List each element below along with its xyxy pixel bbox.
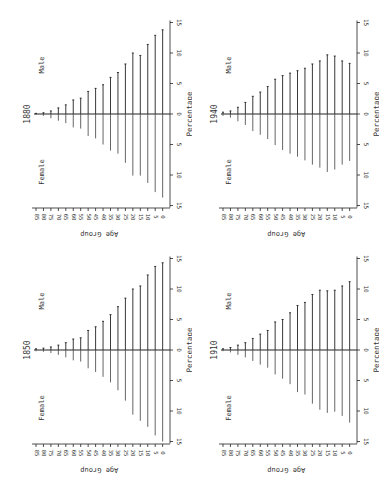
age-tick-label: 60 bbox=[258, 450, 264, 457]
percentage-tick-label: 15 bbox=[363, 19, 370, 27]
age-tick-label: 50 bbox=[273, 214, 279, 221]
percentage-tick-label: 0 bbox=[176, 348, 183, 352]
age-tick-label: 70 bbox=[56, 450, 62, 457]
age-tick-label: 30 bbox=[115, 214, 121, 221]
male-label: Male bbox=[38, 293, 46, 310]
pyramid-panel-1880: 15105051015Percentage8580757065605550454… bbox=[0, 0, 192, 248]
percentage-tick-label: 15 bbox=[363, 255, 370, 263]
panel-year-title: 1940 bbox=[210, 104, 219, 123]
age-tick-label: 10 bbox=[145, 214, 151, 221]
age-tick-label: 60 bbox=[71, 450, 77, 457]
age-axis-title: Age Group bbox=[80, 466, 118, 474]
age-tick-label: 80 bbox=[41, 214, 47, 221]
age-tick-label: 0 bbox=[347, 215, 353, 218]
age-tick-label: 15 bbox=[325, 214, 331, 221]
percentage-tick-label: 5 bbox=[363, 143, 370, 147]
age-tick-label: 25 bbox=[123, 214, 129, 221]
percentage-tick-label: 0 bbox=[363, 348, 370, 352]
panel-year-title: 1910 bbox=[210, 340, 219, 359]
female-label: Female bbox=[38, 395, 46, 420]
age-tick-label: 30 bbox=[115, 450, 121, 457]
age-tick-label: 0 bbox=[160, 451, 166, 454]
percentage-tick-label: 15 bbox=[176, 255, 183, 263]
age-tick-label: 65 bbox=[250, 450, 256, 457]
pyramid-panel-1850: 15105051015Percentage8580757065605550454… bbox=[0, 236, 192, 484]
age-tick-label: 75 bbox=[235, 214, 241, 221]
age-tick-label: 85 bbox=[220, 450, 226, 457]
age-tick-label: 70 bbox=[243, 450, 249, 457]
female-label: Female bbox=[38, 159, 46, 184]
age-tick-label: 55 bbox=[78, 450, 84, 457]
male-label: Male bbox=[225, 57, 233, 74]
age-tick-label: 0 bbox=[160, 215, 166, 218]
male-label: Male bbox=[38, 57, 46, 74]
age-tick-label: 5 bbox=[153, 215, 159, 218]
age-tick-label: 15 bbox=[325, 450, 331, 457]
age-tick-label: 70 bbox=[243, 214, 249, 221]
percentage-tick-label: 15 bbox=[176, 19, 183, 27]
percentage-tick-label: 15 bbox=[363, 438, 370, 446]
age-tick-label: 60 bbox=[258, 214, 264, 221]
percentage-tick-label: 5 bbox=[176, 379, 183, 383]
age-tick-label: 35 bbox=[295, 214, 301, 221]
percentage-axis-title: Percentage bbox=[372, 91, 379, 137]
percentage-tick-label: 15 bbox=[176, 202, 183, 210]
percentage-tick-label: 5 bbox=[176, 318, 183, 322]
percentage-tick-label: 15 bbox=[176, 438, 183, 446]
pyramid-chart-1940: 15105051015Percentage8580757065605550454… bbox=[187, 0, 379, 248]
percentage-tick-label: 10 bbox=[363, 285, 370, 293]
percentage-tick-label: 10 bbox=[176, 171, 183, 179]
pyramid-chart-1880: 15105051015Percentage8580757065605550454… bbox=[0, 0, 192, 248]
percentage-tick-label: 15 bbox=[363, 202, 370, 210]
age-tick-label: 75 bbox=[48, 450, 54, 457]
age-tick-label: 10 bbox=[145, 450, 151, 457]
age-tick-label: 85 bbox=[220, 214, 226, 221]
age-tick-label: 20 bbox=[317, 450, 323, 457]
age-tick-label: 5 bbox=[153, 451, 159, 454]
age-tick-label: 15 bbox=[138, 450, 144, 457]
age-tick-label: 85 bbox=[33, 214, 39, 221]
age-tick-label: 45 bbox=[280, 214, 286, 221]
age-axis-title: Age Group bbox=[267, 466, 305, 474]
age-tick-label: 40 bbox=[288, 450, 294, 457]
age-tick-label: 25 bbox=[123, 450, 129, 457]
age-tick-label: 10 bbox=[332, 450, 338, 457]
percentage-tick-label: 5 bbox=[176, 82, 183, 86]
percentage-tick-label: 5 bbox=[363, 318, 370, 322]
age-tick-label: 75 bbox=[48, 214, 54, 221]
age-tick-label: 55 bbox=[78, 214, 84, 221]
percentage-tick-label: 0 bbox=[363, 112, 370, 116]
pyramid-chart-1850: 15105051015Percentage8580757065605550454… bbox=[0, 236, 192, 484]
pyramid-panel-1940: 15105051015Percentage8580757065605550454… bbox=[187, 0, 379, 248]
percentage-tick-label: 5 bbox=[176, 143, 183, 147]
panel-year-title: 1850 bbox=[23, 340, 32, 359]
percentage-tick-label: 5 bbox=[363, 379, 370, 383]
age-tick-label: 60 bbox=[71, 214, 77, 221]
age-tick-label: 80 bbox=[41, 450, 47, 457]
percentage-tick-label: 10 bbox=[363, 407, 370, 415]
age-tick-label: 0 bbox=[347, 451, 353, 454]
age-tick-label: 50 bbox=[86, 450, 92, 457]
age-tick-label: 45 bbox=[280, 450, 286, 457]
age-tick-label: 80 bbox=[228, 214, 234, 221]
age-tick-label: 45 bbox=[93, 450, 99, 457]
age-tick-label: 70 bbox=[56, 214, 62, 221]
age-tick-label: 15 bbox=[138, 214, 144, 221]
age-tick-label: 25 bbox=[310, 214, 316, 221]
age-tick-label: 80 bbox=[228, 450, 234, 457]
panel-year-title: 1880 bbox=[23, 104, 32, 123]
age-tick-label: 35 bbox=[108, 450, 114, 457]
age-tick-label: 50 bbox=[273, 450, 279, 457]
age-tick-label: 40 bbox=[288, 214, 294, 221]
age-tick-label: 75 bbox=[235, 450, 241, 457]
age-tick-label: 5 bbox=[340, 215, 346, 218]
percentage-tick-label: 5 bbox=[363, 82, 370, 86]
pyramid-panel-1910: 15105051015Percentage8580757065605550454… bbox=[187, 236, 379, 484]
percentage-tick-label: 0 bbox=[176, 112, 183, 116]
percentage-axis-title: Percentage bbox=[372, 327, 379, 373]
age-tick-label: 35 bbox=[108, 214, 114, 221]
percentage-tick-label: 10 bbox=[176, 49, 183, 57]
age-tick-label: 25 bbox=[310, 450, 316, 457]
percentage-tick-label: 10 bbox=[363, 171, 370, 179]
age-tick-label: 85 bbox=[33, 450, 39, 457]
